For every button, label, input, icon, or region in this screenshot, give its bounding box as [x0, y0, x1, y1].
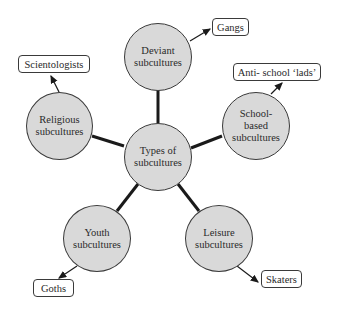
example-scientologists: Scientologists — [18, 55, 90, 73]
node-label: Religious subcultures — [36, 114, 84, 138]
example-label: Goths — [41, 283, 66, 294]
example-label: Skaters — [266, 274, 297, 285]
example-label: Scientologists — [25, 59, 84, 70]
spoke-religious — [92, 136, 124, 146]
node-label: Leisure subcultures — [195, 227, 243, 251]
example-goths: Goths — [33, 279, 74, 297]
spoke-school — [191, 136, 222, 148]
node-label: Youth subcultures — [73, 227, 121, 251]
arrow-lads — [271, 83, 282, 94]
node-label: School- based subcultures — [232, 108, 280, 144]
node-school: School- based subcultures — [222, 92, 290, 160]
spoke-youth — [117, 184, 138, 211]
arrow-skaters — [237, 266, 258, 282]
example-gangs: Gangs — [212, 18, 249, 36]
arrow-gangs — [190, 29, 210, 41]
node-youth: Youth subcultures — [63, 205, 131, 272]
node-deviant: Deviant subcultures — [124, 23, 192, 91]
example-label: Gangs — [217, 22, 244, 33]
arrow-scientologists — [51, 76, 59, 92]
node-leisure: Leisure subcultures — [185, 205, 253, 272]
example-skaters: Skaters — [261, 270, 302, 288]
center-node: Types of subcultures — [124, 123, 192, 191]
example-label: Anti- school ‘lads’ — [238, 67, 317, 78]
arrow-goths — [59, 266, 77, 278]
node-religious: Religious subcultures — [26, 92, 93, 160]
example-anti-school-lads: Anti- school ‘lads’ — [233, 63, 321, 81]
node-label: Deviant subcultures — [134, 45, 182, 69]
spoke-leisure — [178, 184, 199, 211]
center-label: Types of subcultures — [134, 145, 182, 169]
